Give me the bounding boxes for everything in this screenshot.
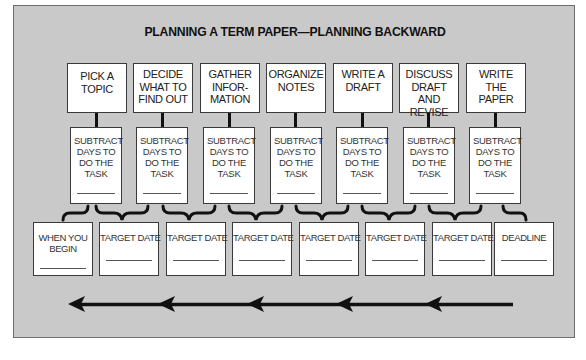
half-brace-icon	[63, 206, 88, 220]
date-label: DEADLINE	[502, 232, 546, 243]
backward-arrow-icon	[68, 296, 513, 312]
date-label: TARGET DATE	[233, 232, 294, 243]
fill-in-line[interactable]	[40, 268, 86, 269]
date-box-target: TARGET DATE	[166, 222, 226, 276]
brace-icon	[163, 206, 215, 220]
date-label: TARGET DATE	[100, 232, 161, 243]
fill-in-line[interactable]	[239, 260, 285, 261]
date-label: TARGET DATE	[366, 232, 427, 243]
fill-in-line[interactable]	[372, 260, 418, 261]
date-box-target: TARGET DATE	[232, 222, 292, 276]
brace-icon	[362, 206, 415, 220]
date-label: TARGET DATE	[167, 232, 228, 243]
date-box-target: TARGET DATE	[432, 222, 492, 276]
fill-in-line[interactable]	[501, 260, 547, 261]
half-brace-icon	[503, 206, 526, 220]
brace-icon	[429, 206, 481, 220]
date-box-target: TARGET DATE	[99, 222, 159, 276]
date-box-target: TARGET DATE	[299, 222, 359, 276]
date-box-begin: WHEN YOU BEGIN	[33, 222, 93, 276]
fill-in-line[interactable]	[173, 260, 219, 261]
brace-icon	[296, 206, 348, 220]
brace-icons	[63, 206, 526, 220]
date-label: TARGET DATE	[300, 232, 361, 243]
fill-in-line[interactable]	[439, 260, 485, 261]
date-label: WHEN YOU BEGIN	[39, 232, 88, 254]
braces-and-arrow	[0, 0, 586, 360]
fill-in-line[interactable]	[106, 260, 152, 261]
brace-icon	[96, 206, 148, 220]
date-box-target: TARGET DATE	[365, 222, 425, 276]
brace-icon	[229, 206, 282, 220]
date-box-deadline: DEADLINE	[494, 222, 554, 276]
fill-in-line[interactable]	[306, 260, 352, 261]
date-label: TARGET DATE	[433, 232, 494, 243]
